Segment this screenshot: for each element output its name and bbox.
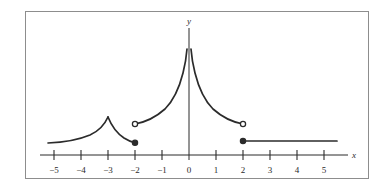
tick-label-5: 5 [322,165,327,175]
x-axis-tick-labels: −5 −4 −3 −2 −1 0 1 2 3 4 5 [49,165,327,175]
closed-endpoint-right-ray [240,138,245,143]
curve-peak-descending [108,117,135,143]
tick-label-minus-1: −1 [157,165,167,175]
tick-label-3: 3 [268,165,273,175]
open-endpoint-middle-right [240,121,245,126]
tick-label-0: 0 [187,165,192,175]
tick-label-minus-4: −4 [76,165,86,175]
open-endpoint-middle-left [132,121,137,126]
curve-left-tail-rising [48,117,108,143]
function-graph-plot: −5 −4 −3 −2 −1 0 1 2 3 4 5 x y [0,0,387,193]
tick-label-minus-5: −5 [49,165,59,175]
figure-root: −5 −4 −3 −2 −1 0 1 2 3 4 5 x y [0,0,387,193]
tick-label-1: 1 [214,165,219,175]
tick-label-minus-2: −2 [130,165,140,175]
closed-endpoint-left-segment [132,140,137,145]
tick-label-4: 4 [295,165,300,175]
tick-label-minus-3: −3 [103,165,113,175]
y-axis-label: y [186,16,191,26]
x-axis-label: x [351,150,356,160]
curve-middle-left-of-asymptote [135,49,187,124]
curve-middle-right-of-asymptote [191,49,243,124]
tick-label-2: 2 [241,165,246,175]
